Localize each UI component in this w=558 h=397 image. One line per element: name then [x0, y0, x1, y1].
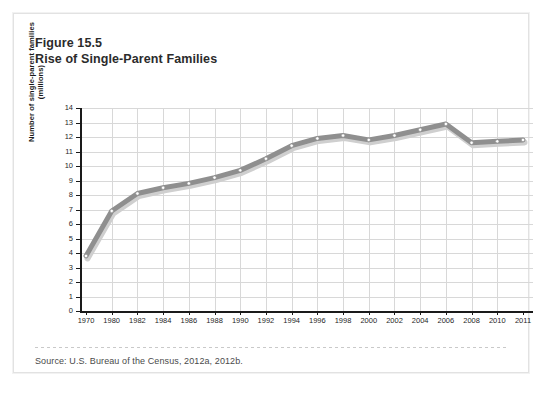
- figure-number: Figure 15.5: [35, 35, 475, 51]
- x-tick-label: 1996: [304, 316, 330, 325]
- x-tick-label: 2004: [407, 316, 433, 325]
- plot-inner: 01234567891011121314 1970198019821984198…: [80, 108, 533, 311]
- y-tick-label: 9: [43, 177, 73, 185]
- x-tick-label: 1994: [279, 316, 305, 325]
- x-tick-label: 2010: [484, 316, 510, 325]
- x-axis-line: [80, 311, 533, 313]
- y-tick-label: 10: [43, 162, 73, 170]
- x-tick-mark: [446, 311, 447, 315]
- y-tick-label: 6: [43, 220, 73, 228]
- data-point-marker: [341, 134, 344, 137]
- y-tick-label: 4: [43, 249, 73, 257]
- x-tick-mark: [240, 311, 241, 315]
- data-point-marker: [136, 192, 139, 195]
- data-point-marker: [110, 209, 113, 212]
- x-tick-mark: [292, 311, 293, 315]
- data-point-marker: [213, 176, 216, 179]
- x-tick-mark: [215, 311, 216, 315]
- data-point-marker: [161, 186, 164, 189]
- series-line: [86, 124, 523, 256]
- data-series-line: [80, 108, 533, 311]
- data-point-marker: [264, 157, 267, 160]
- x-tick-mark: [420, 311, 421, 315]
- data-point-marker: [187, 182, 190, 185]
- x-tick-label: 2006: [433, 316, 459, 325]
- x-tick-label: 1992: [253, 316, 279, 325]
- data-point-marker: [239, 169, 242, 172]
- x-tick-label: 2011: [510, 316, 536, 325]
- data-point-marker: [470, 141, 473, 144]
- data-point-marker: [316, 137, 319, 140]
- plot-box: 01234567891011121314 1970198019821984198…: [80, 108, 533, 311]
- y-tick-label: 12: [43, 133, 73, 141]
- y-tick-label: 2: [43, 278, 73, 286]
- footer-divider: [35, 347, 509, 348]
- x-tick-label: 1988: [202, 316, 228, 325]
- x-tick-label: 1982: [124, 316, 150, 325]
- x-tick-label: 2002: [381, 316, 407, 325]
- x-tick-label: 1970: [73, 316, 99, 325]
- data-point-marker: [496, 140, 499, 143]
- x-tick-mark: [266, 311, 267, 315]
- figure-title: Rise of Single-Parent Families: [35, 51, 475, 67]
- x-tick-mark: [86, 311, 87, 315]
- data-point-marker: [290, 144, 293, 147]
- y-tick-label: 5: [43, 235, 73, 243]
- x-tick-mark: [137, 311, 138, 315]
- y-tick-label: 3: [43, 264, 73, 272]
- x-tick-mark: [394, 311, 395, 315]
- data-point-marker: [444, 122, 447, 125]
- x-tick-mark: [523, 311, 524, 315]
- y-tick-label: 13: [43, 119, 73, 127]
- chart-area: Number of single-parent families (millio…: [35, 96, 513, 334]
- x-tick-label: 1984: [150, 316, 176, 325]
- y-tick-label: 0: [43, 307, 73, 315]
- y-tick-label: 7: [43, 206, 73, 214]
- x-tick-mark: [112, 311, 113, 315]
- y-tick-label: 1: [43, 293, 73, 301]
- y-tick-label: 14: [43, 104, 73, 112]
- x-tick-mark: [497, 311, 498, 315]
- figure-card: Figure 15.5 Rise of Single-Parent Famili…: [13, 13, 529, 373]
- x-tick-label: 1990: [227, 316, 253, 325]
- x-tick-mark: [343, 311, 344, 315]
- x-tick-label: 1986: [176, 316, 202, 325]
- x-tick-label: 2008: [459, 316, 485, 325]
- y-tick-label: 8: [43, 191, 73, 199]
- x-tick-label: 2000: [356, 316, 382, 325]
- x-tick-mark: [163, 311, 164, 315]
- x-tick-mark: [472, 311, 473, 315]
- data-point-marker: [84, 254, 87, 257]
- source-note: Source: U.S. Bureau of the Census, 2012a…: [35, 356, 243, 366]
- figure-header: Figure 15.5 Rise of Single-Parent Famili…: [35, 35, 475, 67]
- x-tick-label: 1980: [99, 316, 125, 325]
- x-tick-mark: [369, 311, 370, 315]
- y-tick-label: 11: [43, 148, 73, 156]
- data-point-marker: [367, 138, 370, 141]
- data-point-marker: [393, 134, 396, 137]
- data-point-marker: [521, 138, 524, 141]
- x-tick-mark: [189, 311, 190, 315]
- data-point-marker: [418, 128, 421, 131]
- x-tick-mark: [317, 311, 318, 315]
- x-tick-label: 1998: [330, 316, 356, 325]
- y-tick-mark: [76, 311, 80, 312]
